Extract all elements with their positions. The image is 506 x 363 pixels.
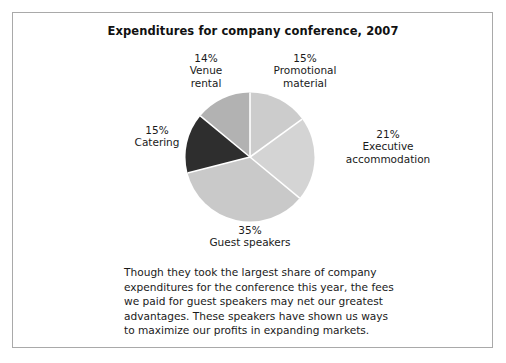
pie-label-guest-speakers: 35% Guest speakers <box>175 224 325 249</box>
pie-label-executive-accommodation-percent: 21% <box>330 128 446 140</box>
pie-chart <box>185 92 315 222</box>
pie-label-guest-speakers-name: Guest speakers <box>175 236 325 248</box>
pie-label-venue-rental-name-line2: rental <box>170 77 242 89</box>
page-title: Expenditures for company conference, 200… <box>0 24 506 38</box>
pie-label-catering-name: Catering <box>126 136 188 148</box>
pie-chart-svg <box>185 92 315 222</box>
pie-label-executive-accommodation-name-line1: Executive <box>330 140 446 152</box>
pie-label-venue-rental-name-line1: Venue <box>170 64 242 76</box>
pie-label-guest-speakers-percent: 35% <box>175 224 325 236</box>
pie-label-catering: 15% Catering <box>126 124 188 149</box>
pie-label-venue-rental-percent: 14% <box>170 52 242 64</box>
pie-label-promotional-material: 15% Promotional material <box>258 52 352 89</box>
pie-label-executive-accommodation-name-line2: accommodation <box>330 153 446 165</box>
pie-label-executive-accommodation: 21% Executive accommodation <box>330 128 446 165</box>
pie-label-promotional-material-name-line1: Promotional <box>258 64 352 76</box>
body-paragraph: Though they took the largest share of co… <box>124 265 396 338</box>
pie-label-venue-rental: 14% Venue rental <box>170 52 242 89</box>
pie-label-promotional-material-percent: 15% <box>258 52 352 64</box>
pie-label-catering-percent: 15% <box>126 124 188 136</box>
slide-page: Expenditures for company conference, 200… <box>0 0 506 363</box>
pie-label-promotional-material-name-line2: material <box>258 77 352 89</box>
